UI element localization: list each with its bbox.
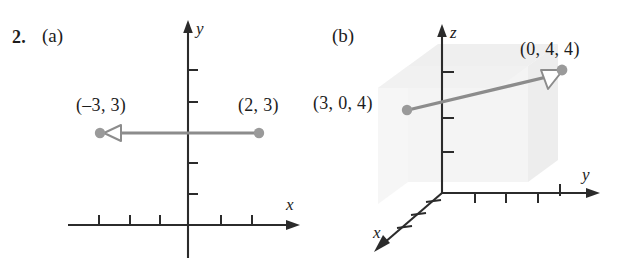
- axis-label-y-b: y: [582, 166, 590, 183]
- point-label-tail-a: (2, 3): [238, 96, 279, 114]
- point-marker-head-a: [95, 128, 105, 138]
- cube-right-face: [528, 44, 558, 182]
- z-axis-arrowhead-b: [437, 24, 447, 37]
- y-axis-arrowhead-b: [586, 188, 600, 198]
- x-axis-tick-b: [397, 226, 412, 228]
- x-axis-group-a: [68, 215, 300, 230]
- panel-b: (b) (3, 0, 4) (0, 4, 4) z y x: [310, 0, 619, 274]
- point-label-head-a: (–3, 3): [76, 96, 126, 114]
- x-axis-arrowhead-a: [286, 220, 300, 230]
- x-axis-group-b: [374, 193, 442, 252]
- axis-label-z-b: z: [450, 24, 457, 41]
- y-axis-group-a: [183, 20, 198, 258]
- axis-label-y-a: y: [196, 20, 204, 37]
- point-marker-tail-a: [254, 128, 264, 138]
- x-axis-tick-b: [426, 200, 441, 202]
- y-axis-arrowhead-a: [183, 20, 193, 33]
- y-axis-group-b: [442, 184, 600, 203]
- point-marker-tail-b: [402, 105, 412, 115]
- point-label-tail-b: (3, 0, 4): [313, 94, 373, 112]
- problem-number: 2.: [12, 28, 26, 46]
- axis-label-x-b: x: [373, 224, 381, 241]
- point-label-head-b: (0, 4, 4): [520, 40, 580, 58]
- part-label-b: (b): [332, 26, 354, 45]
- axis-label-x-a: x: [286, 196, 294, 213]
- x-axis-tick-b: [411, 213, 426, 215]
- figure-canvas: 2. (a) (–3, 3) (2, 3) y x: [0, 0, 619, 274]
- part-label-a: (a): [42, 26, 63, 45]
- reference-cube: [378, 44, 558, 204]
- vector-a-arrowhead: [104, 125, 121, 141]
- panel-a: 2. (a) (–3, 3) (2, 3) y x: [0, 0, 310, 274]
- vector-a: [95, 125, 264, 141]
- point-marker-head-b: [557, 65, 568, 76]
